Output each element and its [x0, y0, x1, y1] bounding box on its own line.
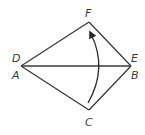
curved-arrow-icon	[88, 34, 99, 103]
triangle-def	[21, 22, 131, 66]
reflection-diagram: D A F E B C	[0, 0, 145, 135]
label-d: D	[12, 52, 20, 65]
label-a: A	[11, 69, 20, 82]
segment-df	[21, 22, 89, 66]
label-f: F	[85, 7, 92, 20]
label-b: B	[131, 69, 139, 82]
label-c: C	[85, 116, 93, 129]
segment-ac	[21, 66, 89, 110]
label-e: E	[131, 52, 138, 65]
triangle-abc	[21, 66, 131, 110]
